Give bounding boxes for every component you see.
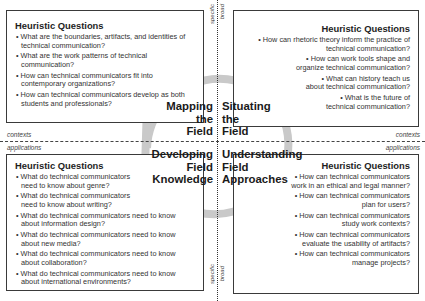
- box-title: Heuristic Questions: [242, 23, 410, 34]
- axis-label-contexts-left: contexts: [7, 131, 31, 138]
- axis-label-broad-bottom: broad: [219, 266, 225, 281]
- question-item: •What are the boundaries, artifacts, and…: [15, 33, 195, 50]
- quadrant-label-developing: DevelopingFieldKnowledge: [152, 148, 213, 186]
- question-item: •What do technical communicators need to…: [15, 250, 195, 267]
- question-item: •How can work tools shape and organize t…: [242, 55, 410, 72]
- question-item: •What do technical communicators need to…: [15, 173, 135, 190]
- question-item: •How can technical communicators plan fo…: [240, 192, 410, 209]
- question-item: •What do technical communicators need to…: [15, 231, 195, 248]
- question-item: •What do technical communicators need to…: [15, 212, 180, 229]
- question-item: •How can technical communicators study w…: [240, 212, 410, 229]
- axis-label-applications-right: applications: [386, 144, 420, 151]
- question-list: •What do technical communicators need to…: [15, 173, 195, 287]
- axis-label-applications-left: applications: [7, 144, 41, 151]
- horizontal-divider: [0, 141, 425, 142]
- quadrant-label-situating: SituatingtheField: [222, 100, 271, 138]
- question-list: •How can technical communicators work in…: [240, 173, 410, 267]
- box-title: Heuristic Questions: [15, 20, 195, 31]
- axis-label-specific-bottom: specific: [209, 264, 215, 284]
- quadrant-label-mapping: MappingtheField: [166, 100, 213, 138]
- question-item: •How can technical communicators fit int…: [15, 72, 195, 89]
- question-item: •How can technical communicators evaluat…: [240, 231, 410, 248]
- axis-label-specific-top: specific: [209, 4, 215, 24]
- question-item: •How can technical communicators manage …: [240, 250, 410, 267]
- question-item: •What do technical communicators need to…: [15, 270, 195, 287]
- question-list: •What are the boundaries, artifacts, and…: [15, 33, 195, 108]
- axis-label-contexts-right: contexts: [396, 131, 420, 138]
- axis-label-broad-top: broad: [219, 4, 225, 19]
- quadrant-label-understanding: UnderstandingFieldApproaches: [222, 148, 302, 186]
- question-item: •What are the work patterns of technical…: [15, 52, 195, 69]
- question-item: •What can history teach us about technic…: [242, 75, 410, 92]
- question-item: •What do technical communicators need to…: [15, 192, 135, 209]
- vertical-divider: [217, 0, 218, 301]
- question-item: •How can rhetoric theory inform the prac…: [242, 36, 410, 53]
